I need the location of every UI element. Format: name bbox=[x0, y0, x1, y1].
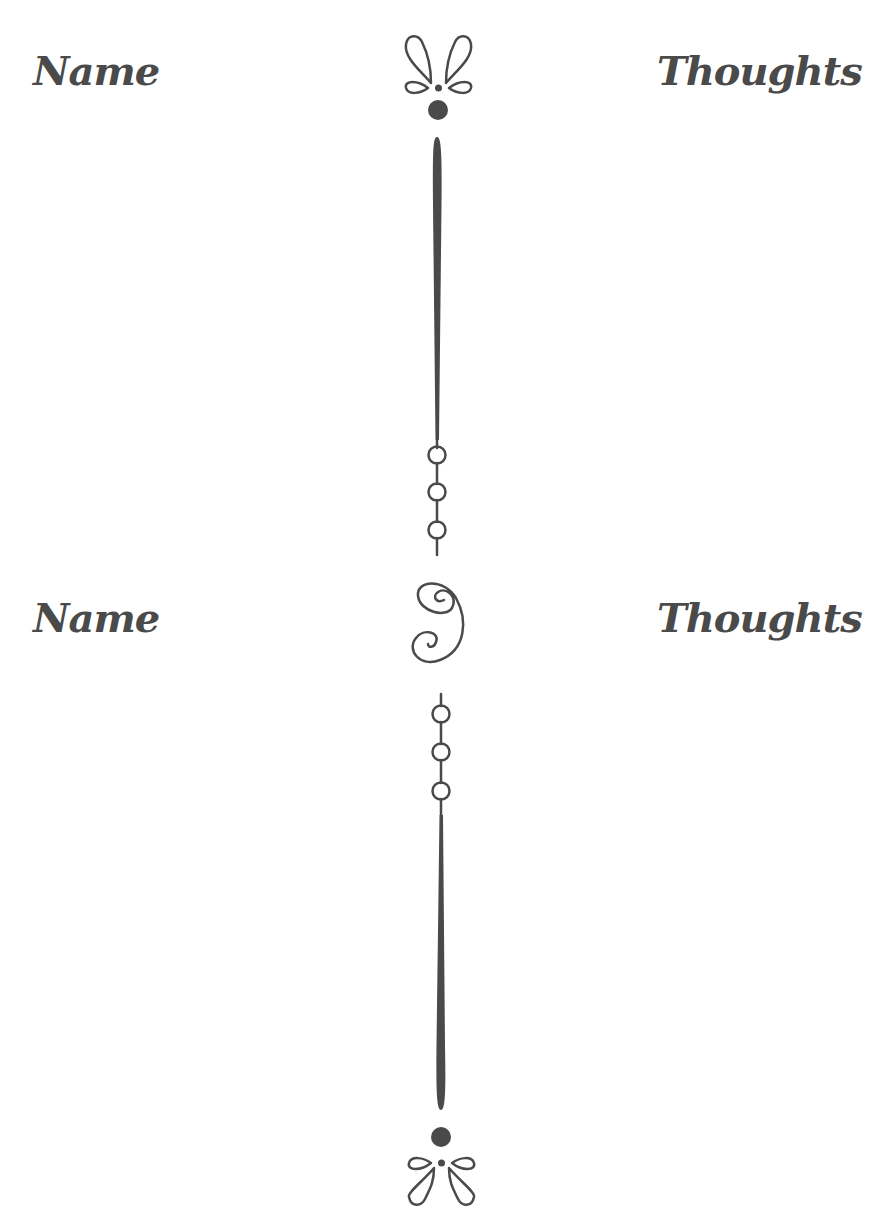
swirl-s-icon bbox=[413, 584, 463, 662]
flourish-dot-bottom-large bbox=[431, 1127, 451, 1147]
flourish-dot-top-small bbox=[435, 85, 442, 92]
bead-chain-upper-icon bbox=[429, 440, 446, 555]
flourish-dot-bottom-small bbox=[438, 1160, 445, 1167]
bead-chain-lower-icon bbox=[433, 694, 450, 815]
flourish-dot-top-large bbox=[428, 100, 448, 120]
tapered-line-bottom bbox=[436, 815, 445, 1110]
center-divider bbox=[0, 0, 872, 1211]
tapered-line-top bbox=[433, 137, 442, 440]
flourish-top-icon bbox=[406, 36, 471, 93]
